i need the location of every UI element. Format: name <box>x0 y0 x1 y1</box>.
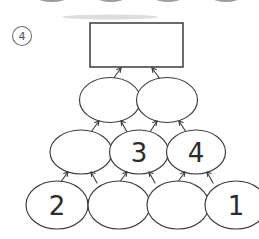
row-4-ellipses: 2 1 <box>26 181 259 229</box>
figure-canvas: 4 <box>0 0 259 239</box>
ellipse-r4-c2[interactable] <box>88 181 150 229</box>
arrows-row2-to-box <box>113 68 160 79</box>
row-3-ellipses: 3 4 <box>50 130 226 174</box>
cropped-top-artifacts <box>38 0 239 20</box>
pyramid-diagram: 4 <box>0 0 259 239</box>
figure-number-text: 4 <box>19 30 26 43</box>
figure-number-badge: 4 <box>13 27 32 46</box>
ellipse-r3-c2[interactable]: 3 <box>110 130 169 174</box>
ellipse-r2-c2[interactable] <box>137 78 198 123</box>
row-2-ellipses <box>80 78 198 123</box>
ellipse-r3-c3[interactable]: 4 <box>167 130 226 174</box>
ellipse-r4-c4[interactable]: 1 <box>205 181 259 229</box>
ellipse-r3-c3-label: 4 <box>188 138 205 168</box>
ellipse-r3-c2-label: 3 <box>131 138 148 168</box>
ellipse-r4-c3[interactable] <box>147 181 209 229</box>
answer-box[interactable] <box>90 23 183 67</box>
ellipse-r4-c1-label: 2 <box>49 191 66 221</box>
ellipse-r3-c1[interactable] <box>50 130 112 174</box>
ellipse-r4-c1[interactable]: 2 <box>26 181 88 229</box>
ellipse-r4-c4-label: 1 <box>228 191 245 221</box>
ellipse-r2-c1[interactable] <box>80 78 141 123</box>
